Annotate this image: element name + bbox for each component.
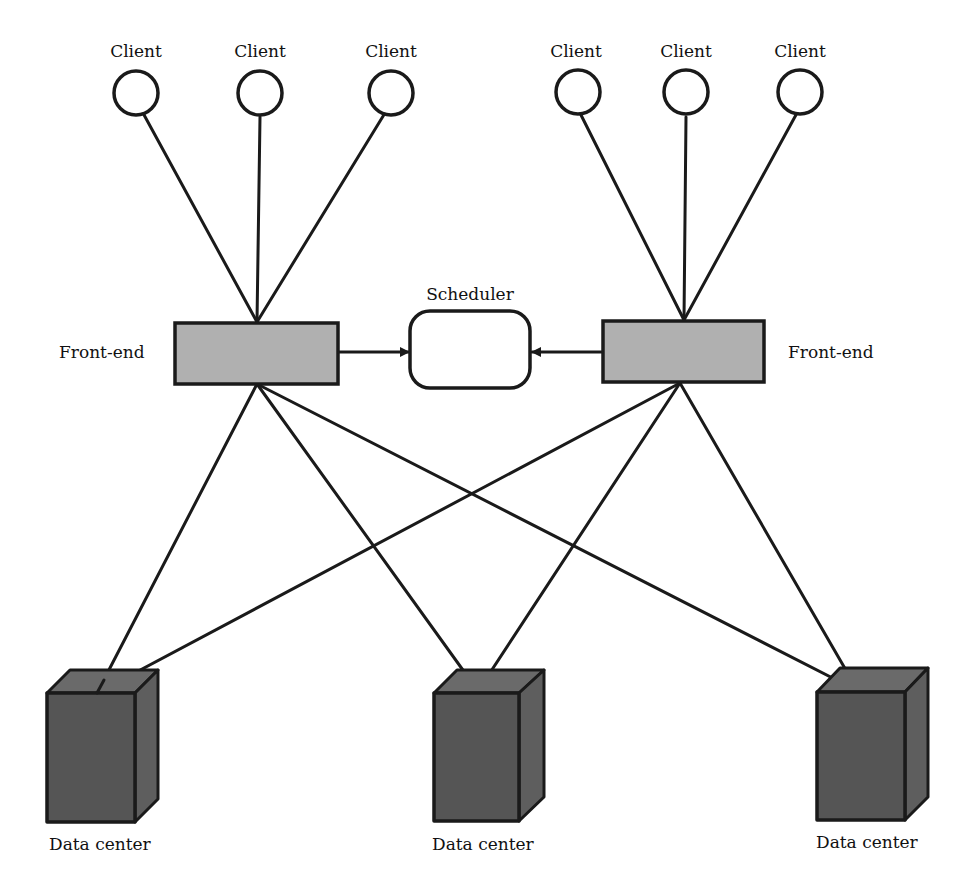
front-end-box — [603, 321, 764, 382]
edge-c5-fe2 — [684, 117, 686, 320]
edge-c6-fe2 — [684, 113, 797, 320]
data-center-node[interactable]: Data center — [816, 668, 928, 852]
client-circle-icon — [556, 70, 600, 114]
data-center-label: Data center — [432, 834, 535, 854]
data-center-front-face — [434, 693, 519, 821]
data-center-front-face — [817, 692, 905, 820]
client-node[interactable]: Client — [234, 41, 286, 115]
data-center-side-face — [905, 668, 928, 820]
edge-fe2-dc1 — [97, 383, 680, 693]
data-center-label: Data center — [816, 832, 919, 852]
client-node[interactable]: Client — [774, 41, 826, 114]
architecture-diagram: Client Client Client Client Client Clien… — [0, 0, 978, 886]
edge-c2-fe1 — [257, 117, 260, 322]
edge-c1-fe1 — [143, 113, 257, 322]
data-center-node[interactable]: Data center — [47, 670, 158, 854]
edge-fe1-dc1 — [97, 384, 257, 693]
front-end-node-left[interactable]: Front-end — [59, 323, 338, 384]
client-node[interactable]: Client — [550, 41, 602, 114]
data-center-node[interactable]: Data center — [432, 670, 544, 854]
client-label: Client — [774, 41, 826, 61]
client-node[interactable]: Client — [660, 41, 712, 114]
client-circle-icon — [238, 71, 282, 115]
scheduler-label: Scheduler — [426, 284, 515, 304]
client-label: Client — [110, 41, 162, 61]
data-center-side-face — [135, 670, 158, 822]
client-circle-icon — [664, 70, 708, 114]
client-label: Client — [365, 41, 417, 61]
front-end-box — [175, 323, 338, 384]
client-label: Client — [660, 41, 712, 61]
edge-fe1-dc2 — [257, 384, 478, 691]
datacenter-edges — [97, 383, 858, 693]
data-center-side-face — [519, 670, 544, 821]
client-label: Client — [234, 41, 286, 61]
client-circle-icon — [114, 71, 158, 115]
front-end-label: Front-end — [59, 342, 145, 362]
client-circle-icon — [778, 70, 822, 114]
edge-fe2-dc2 — [478, 383, 680, 691]
client-label: Client — [550, 41, 602, 61]
edge-c3-fe1 — [257, 113, 385, 322]
edge-c4-fe2 — [580, 113, 684, 320]
client-node[interactable]: Client — [365, 41, 417, 115]
data-center-label: Data center — [49, 834, 152, 854]
scheduler-node[interactable]: Scheduler — [410, 284, 530, 388]
front-end-node-right[interactable]: Front-end — [603, 321, 874, 382]
data-center-front-face — [47, 693, 135, 822]
front-end-label: Front-end — [788, 342, 874, 362]
scheduler-box — [410, 311, 530, 388]
client-node[interactable]: Client — [110, 41, 162, 115]
client-circle-icon — [369, 71, 413, 115]
